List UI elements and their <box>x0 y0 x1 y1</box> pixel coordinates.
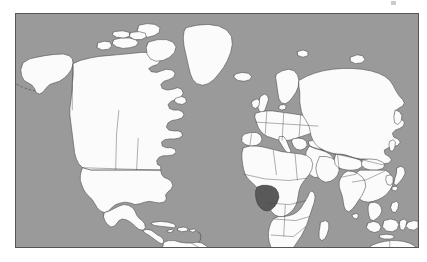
region-korea <box>386 175 393 185</box>
region-iberia <box>242 133 262 147</box>
world-map-figure <box>15 13 419 248</box>
island-hispaniola <box>178 227 188 232</box>
island-svalbard <box>297 50 307 57</box>
top-right-artifact <box>391 1 396 5</box>
island-devon <box>129 32 146 40</box>
island-java <box>379 234 394 239</box>
country-canada <box>70 52 184 170</box>
world-map-svg <box>16 14 418 247</box>
page-root: World map with Nigeria highlighted <box>0 0 427 262</box>
country-denmark <box>279 104 286 110</box>
